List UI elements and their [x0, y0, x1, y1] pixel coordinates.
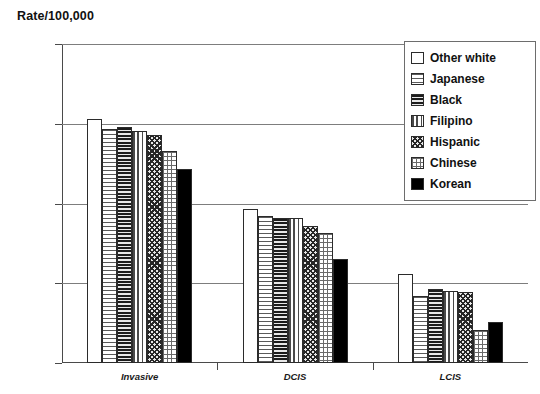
bar — [273, 218, 288, 363]
x-category-label: Invasive — [121, 371, 159, 382]
legend-item-label: Korean — [430, 178, 471, 190]
bar — [303, 226, 318, 363]
legend-item[interactable]: Black — [411, 89, 531, 110]
y-tick-mark — [55, 124, 62, 125]
legend-swatch-icon — [411, 178, 424, 190]
legend-swatch-icon — [411, 73, 424, 85]
legend-item[interactable]: Chinese — [411, 152, 531, 173]
bar — [288, 218, 303, 363]
legend-swatch-icon — [411, 136, 424, 148]
bar — [132, 131, 147, 363]
legend-item[interactable]: Filipino — [411, 110, 531, 131]
y-tick-mark — [55, 363, 62, 364]
bar — [102, 129, 117, 363]
bar — [473, 330, 488, 363]
bar — [488, 322, 503, 363]
legend-item-label: Other white — [430, 52, 496, 64]
x-category-label: DCIS — [284, 371, 307, 382]
legend-item-label: Chinese — [430, 157, 477, 169]
legend-item[interactable]: Korean — [411, 173, 531, 194]
legend-item[interactable]: Japanese — [411, 68, 531, 89]
bar-chart: Rate/100,000 10001001010.1 InvasiveDCISL… — [0, 0, 540, 394]
legend-swatch-icon — [411, 115, 424, 127]
legend-swatch-icon — [411, 94, 424, 106]
legend-swatch-icon — [411, 52, 424, 64]
x-tick-mark — [373, 363, 374, 370]
x-category-label: LCIS — [440, 371, 462, 382]
legend-item[interactable]: Hispanic — [411, 131, 531, 152]
y-axis-title: Rate/100,000 — [17, 9, 94, 23]
legend-item-label: Hispanic — [430, 136, 480, 148]
bar — [147, 135, 162, 363]
bar — [333, 259, 348, 363]
bar — [413, 296, 428, 363]
bar — [117, 127, 132, 363]
legend-item[interactable]: Other white — [411, 47, 531, 68]
bar — [162, 151, 177, 363]
bar — [443, 291, 458, 363]
y-tick-mark — [55, 204, 62, 205]
legend-item-label: Black — [430, 94, 462, 106]
bar — [318, 233, 333, 363]
y-tick-mark — [55, 283, 62, 284]
legend-swatch-icon — [411, 157, 424, 169]
bar — [458, 292, 473, 363]
legend-item-label: Japanese — [430, 73, 485, 85]
legend-items: Other whiteJapaneseBlackFilipinoHispanic… — [411, 47, 531, 194]
legend[interactable]: Other whiteJapaneseBlackFilipinoHispanic… — [404, 41, 536, 201]
bar — [428, 289, 443, 363]
x-tick-mark — [217, 363, 218, 370]
y-tick-mark — [55, 44, 62, 45]
bar — [258, 216, 273, 363]
bar — [87, 119, 102, 363]
bar — [243, 209, 258, 363]
bar — [398, 274, 413, 363]
legend-item-label: Filipino — [430, 115, 473, 127]
bar — [177, 169, 192, 363]
